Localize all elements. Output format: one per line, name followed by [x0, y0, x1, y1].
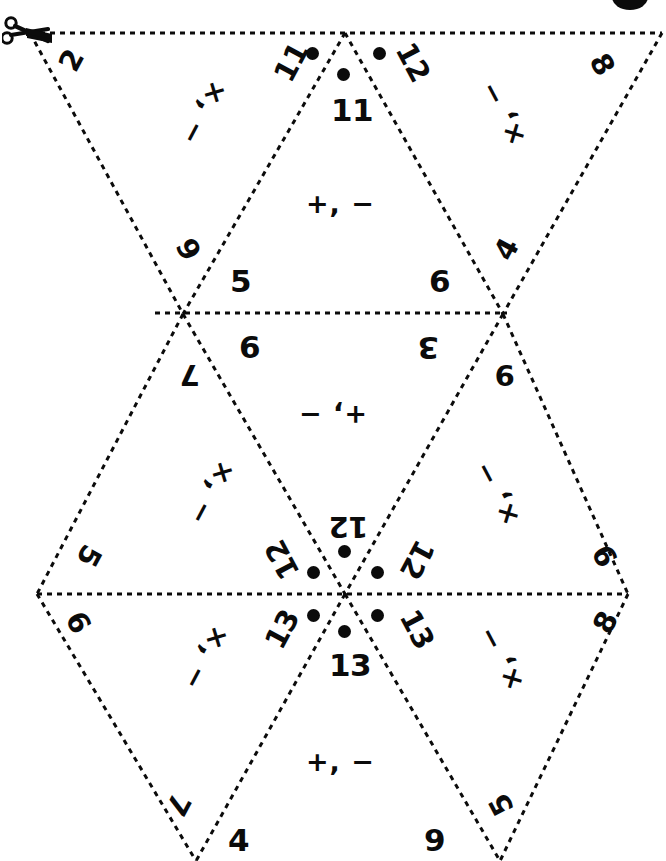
number-5: 5: [230, 266, 251, 297]
number-6-upper-right: 6: [429, 266, 450, 297]
dot-marker: [373, 47, 386, 60]
flexagon-template-page: 2 ×, − 11 11 12 ×, − 8 +, − 9 5 6 4 7 6 …: [0, 0, 666, 861]
number-9-bottom: 9: [424, 825, 445, 856]
operator-mid-center: +, −: [298, 402, 367, 429]
fold-diagonal: [37, 594, 196, 861]
fold-diagonal: [30, 33, 183, 314]
dot-marker: [338, 545, 351, 558]
operator-top-center: +, −: [306, 190, 375, 217]
fold-diagonal: [37, 314, 183, 594]
scissors-icon: [2, 16, 54, 62]
number-7: 7: [180, 360, 200, 389]
dot-marker: [307, 609, 320, 622]
number-6-mid-left: 6: [239, 332, 260, 363]
number-4-bottom: 4: [228, 825, 249, 856]
number-11-center: 11: [331, 95, 373, 126]
number-13-rosette-bottom: 13: [329, 650, 371, 681]
operator-bottom-center: +, −: [306, 748, 375, 775]
fold-diagonal: [503, 33, 662, 314]
dot-marker: [307, 566, 320, 579]
dot-marker: [371, 609, 384, 622]
dot-marker: [337, 68, 350, 81]
number-9-mid-right: 9: [495, 360, 515, 389]
dot-marker: [338, 625, 351, 638]
dot-marker: [306, 47, 319, 60]
number-12-rosette-top: 12: [329, 512, 368, 541]
number-3: 3: [418, 332, 439, 363]
dot-marker: [371, 566, 384, 579]
